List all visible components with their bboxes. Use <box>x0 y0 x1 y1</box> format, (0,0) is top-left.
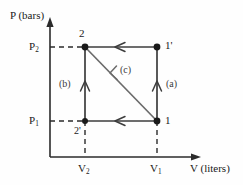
x-tick-label-v2-text: V <box>78 162 86 174</box>
process-a-label: (a) <box>166 79 177 89</box>
y-axis-arrowhead <box>46 17 53 27</box>
state-point-2-prime-label: 2' <box>74 126 81 136</box>
state-point-2-label: 2 <box>79 28 85 39</box>
x-tick-label-v1-text: V <box>150 162 158 174</box>
y-tick-label-p1: P1 <box>29 115 39 128</box>
x-axis-arrowhead <box>191 153 201 160</box>
process-c-label: (c) <box>120 65 131 75</box>
pv-diagram-figure: P (bars) V (liters) P2 P1 V2 V1 2 1' 1 2… <box>0 0 243 185</box>
process-b-label: (b) <box>59 79 71 89</box>
state-point-1-label: 1 <box>165 115 171 126</box>
state-point-1-marker <box>154 118 161 125</box>
process-c-diagonal-line <box>85 47 157 121</box>
y-axis-title: P (bars) <box>10 10 44 21</box>
state-point-2-prime-marker <box>82 118 88 124</box>
guide-lines-group <box>50 47 157 157</box>
cycle-path-group <box>85 47 157 121</box>
state-point-2-marker <box>82 44 89 51</box>
x-tick-label-v1: V1 <box>150 163 162 176</box>
x-tick-label-v1-sub: 1 <box>158 168 162 176</box>
state-point-1-prime-label: 1' <box>165 40 172 51</box>
x-tick-label-v2-sub: 2 <box>86 168 90 176</box>
x-axis-title: V (liters) <box>190 163 230 174</box>
y-tick-label-p1-sub: 1 <box>35 120 39 128</box>
state-point-1-prime-marker <box>154 44 161 51</box>
y-tick-label-p2-sub: 2 <box>35 46 39 54</box>
x-tick-label-v2: V2 <box>78 163 90 176</box>
y-tick-label-p2: P2 <box>29 41 39 54</box>
pv-diagram-canvas <box>0 0 243 185</box>
